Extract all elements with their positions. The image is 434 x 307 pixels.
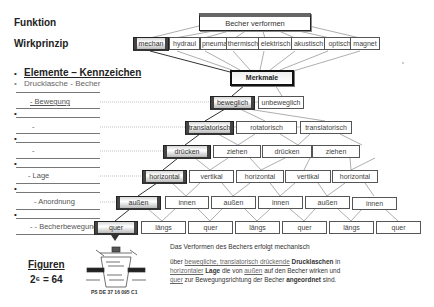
text: die von [220, 267, 244, 274]
text: auf den Becher wirken und [262, 267, 340, 274]
text-bold: Lage [203, 267, 220, 274]
text: in [333, 258, 340, 265]
text-bold: Drucklaschen [290, 258, 334, 265]
description-paragraph: über bewegliche, translatorisch drückend… [170, 257, 430, 284]
description-line1: Das Verformen des Bechers erfolgt mechan… [170, 242, 310, 251]
text: zur Bewegungsrichtung der Becher [183, 276, 286, 283]
text-underlined: horizontaler [170, 267, 203, 274]
text-underlined: quer [170, 276, 183, 283]
patent-number: PS DE 37 16 095 C1 [91, 289, 137, 295]
text-underlined: bewegliche, translatorisch drückende [185, 258, 290, 265]
text: sind. [321, 276, 336, 283]
text-bold: angeordnet [286, 276, 321, 283]
text: über [170, 258, 185, 265]
text-underlined: außen [244, 267, 262, 274]
